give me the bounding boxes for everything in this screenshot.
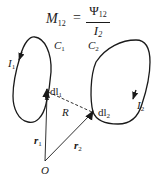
loop-c1 bbox=[13, 37, 51, 122]
i2-direction-arrow-icon bbox=[133, 90, 136, 99]
label-dl2: dl2 bbox=[98, 107, 110, 122]
label-r1: r1 bbox=[34, 135, 42, 150]
label-c1: C1 bbox=[54, 40, 65, 55]
label-r-distance: R bbox=[62, 107, 69, 118]
label-origin: O bbox=[41, 165, 49, 176]
label-i2: I2 bbox=[137, 100, 144, 115]
label-dl1: dl1 bbox=[50, 86, 62, 101]
label-i1: I1 bbox=[8, 58, 15, 73]
circuits-diagram bbox=[0, 0, 156, 192]
label-r2: r2 bbox=[74, 140, 82, 155]
r2-vector bbox=[45, 114, 91, 161]
label-c2: C2 bbox=[88, 40, 99, 55]
